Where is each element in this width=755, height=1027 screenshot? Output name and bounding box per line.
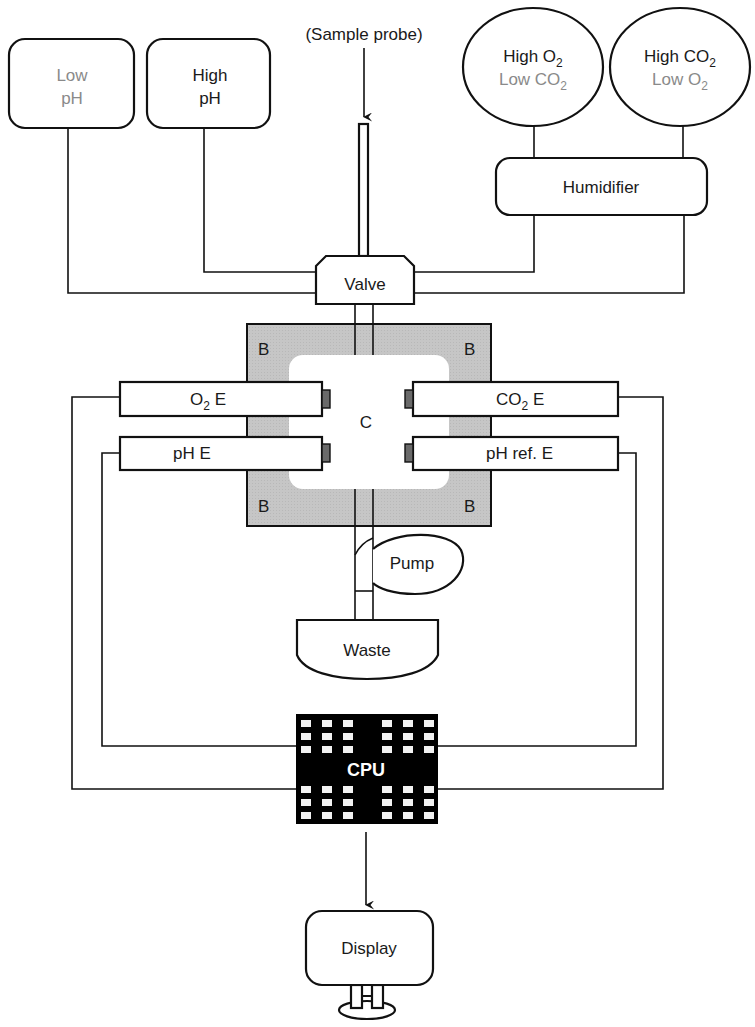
electrode-o2: O2 E xyxy=(120,382,330,416)
bath-label-tr: B xyxy=(464,340,475,359)
bath-label-bl: B xyxy=(258,497,269,516)
reservoir-low-ph: Low pH xyxy=(9,39,134,128)
valve-label: Valve xyxy=(344,275,385,294)
ph-ref-electrode-label: pH ref. E xyxy=(486,444,553,463)
valve: Valve xyxy=(316,256,414,304)
sample-probe: (Sample probe) xyxy=(305,25,422,256)
chamber-label: C xyxy=(360,413,372,432)
high-ph-line1: High xyxy=(193,66,228,85)
ph-electrode-label: pH E xyxy=(173,444,211,463)
cpu-label: CPU xyxy=(347,760,385,780)
electrode-ph: pH E xyxy=(120,437,330,470)
pump-label: Pump xyxy=(390,554,434,573)
bath-label-tl: B xyxy=(258,340,269,359)
analyzer-diagram: (Sample probe) Low pH High pH High O2 Lo… xyxy=(0,0,755,1027)
thermal-bath: B B B B C xyxy=(247,324,491,526)
cpu-chip: CPU xyxy=(297,715,437,823)
bath-label-br: B xyxy=(464,497,475,516)
low-ph-line1: Low xyxy=(56,66,88,85)
humidifier: Humidifier xyxy=(496,158,707,215)
high-ph-line2: pH xyxy=(199,89,221,108)
low-ph-line2: pH xyxy=(61,89,83,108)
display-label: Display xyxy=(341,939,397,958)
electrode-co2: CO2 E xyxy=(405,382,618,416)
probe-tube xyxy=(359,124,368,256)
display-monitor: Display xyxy=(306,911,433,1019)
waste-label: Waste xyxy=(343,641,391,660)
reservoir-high-ph: High pH xyxy=(147,39,270,128)
electrode-ph-ref: pH ref. E xyxy=(405,437,618,470)
gas-tank-high-co2: High CO2 Low O2 xyxy=(610,8,750,126)
gas-tank-high-o2: High O2 Low CO2 xyxy=(463,8,603,126)
waste-container: Waste xyxy=(297,620,438,679)
humidifier-label: Humidifier xyxy=(563,178,640,197)
pump: Pump xyxy=(355,535,463,594)
sample-probe-label: (Sample probe) xyxy=(305,25,422,44)
